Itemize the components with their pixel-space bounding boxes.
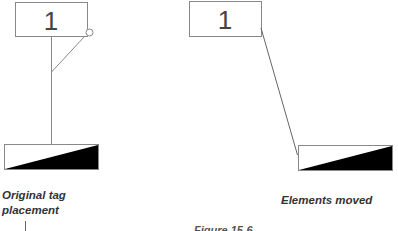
left-tag-group: 1: [5, 3, 99, 170]
left-caption-line1: Original tag: [2, 188, 66, 203]
right-leader-line: [261, 28, 298, 155]
right-caption: Elements moved: [281, 193, 372, 208]
left-tag-number: 1: [44, 6, 58, 36]
left-leader-diagonal: [52, 36, 86, 72]
right-tag-number: 1: [218, 5, 232, 35]
left-caption-line2: placement: [2, 203, 66, 218]
left-tag-handle-icon: [86, 29, 93, 36]
right-tag-group: 1: [190, 2, 393, 171]
left-caption: Original tag placement: [2, 188, 66, 218]
figure-caption: Figure 15-6: [194, 224, 253, 231]
